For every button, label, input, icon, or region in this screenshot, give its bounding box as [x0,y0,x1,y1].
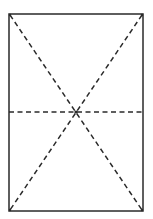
corner-point-tl [9,14,11,16]
corner-point-bl [9,209,11,211]
corner-point-tr [141,14,143,16]
center-point [74,110,77,113]
diagram-canvas [0,0,153,219]
corner-point-br [141,209,143,211]
